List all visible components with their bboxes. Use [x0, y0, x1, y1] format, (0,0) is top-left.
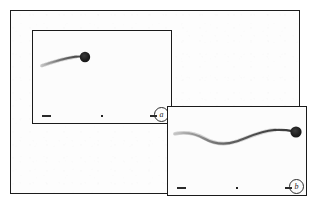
micrograph-panel-a[interactable]: a	[32, 30, 172, 124]
center-tick-a	[101, 115, 104, 118]
filament-a	[41, 56, 85, 66]
figure-outer-frame: a	[10, 10, 300, 194]
center-tick-b	[236, 187, 239, 190]
filament-b	[174, 130, 294, 144]
bead-b	[290, 126, 301, 137]
scale-bar-left-b	[177, 187, 186, 189]
micrograph-panel-b[interactable]: b	[167, 106, 307, 196]
panel-label-b: b	[289, 179, 304, 194]
panel-a-scale-marks	[33, 109, 171, 119]
bead-a	[80, 52, 90, 62]
panel-b-scale-marks	[168, 181, 306, 191]
figure-root: a	[0, 0, 310, 204]
scale-bar-left-a	[42, 115, 51, 117]
